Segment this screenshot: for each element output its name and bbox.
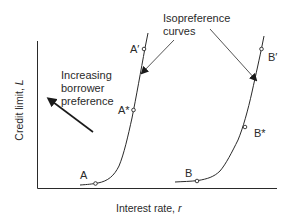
x-axis-label: Interest rate, r <box>116 202 182 214</box>
isopreference-label-line2: curves <box>163 25 196 37</box>
label-b-prime: B′ <box>268 51 277 63</box>
point-a <box>94 182 98 186</box>
point-b-prime <box>260 47 264 51</box>
label-a-prime: A′ <box>130 43 139 55</box>
isopreference-curve-b: B B* B′ <box>175 36 277 183</box>
label-b: B <box>185 167 192 179</box>
label-b-star: B* <box>254 127 266 139</box>
label-a: A <box>80 169 88 181</box>
y-axis-label: Credit limit, L <box>13 79 25 140</box>
preference-annotation: Increasing borrower preference <box>49 69 114 132</box>
point-a-prime <box>142 47 146 51</box>
arrow-to-curve-b-icon <box>210 29 256 80</box>
point-a-star <box>132 108 136 112</box>
preference-label-line2: borrower <box>61 82 105 94</box>
isopreference-annotation: Isopreference curves <box>142 12 256 80</box>
isopreference-label-line1: Isopreference <box>163 12 230 24</box>
preference-label-line3: preference <box>61 95 114 107</box>
isopreference-curve-a: A A* A′ <box>80 33 148 185</box>
arrow-to-curve-a-icon <box>142 40 174 73</box>
point-b <box>195 179 199 183</box>
preference-label-line1: Increasing <box>61 69 112 81</box>
isopreference-diagram: Credit limit, L Interest rate, r A A* A′… <box>0 0 292 224</box>
label-a-star: A* <box>118 104 130 116</box>
point-b-star <box>243 125 247 129</box>
